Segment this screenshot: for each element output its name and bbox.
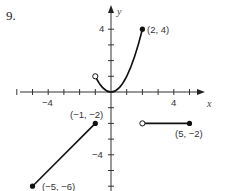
segment-left (33, 123, 96, 186)
graph: −4 4 4 −4 x y (2, 4) (−1, −2) (−5, −6) (… (0, 0, 226, 191)
closed-point-2-4 (140, 27, 145, 32)
y-axis-arrow-icon (108, 5, 114, 13)
y-axis-label: y (116, 6, 122, 17)
x-tick-label-neg4: −4 (42, 97, 53, 108)
closed-point-m1-m2 (93, 121, 98, 126)
closed-point-5-m2 (187, 121, 192, 126)
x-axis-arrow-icon (197, 89, 205, 95)
x-axis-label: x (206, 98, 212, 109)
y-tick-label-4: 4 (99, 23, 104, 34)
closed-point-m5-m6 (30, 184, 35, 189)
annotation-5-m2: (5, −2) (175, 128, 203, 139)
x-tick-label-4: 4 (171, 97, 176, 108)
open-point-m1-1 (93, 74, 98, 79)
parabola-curve (95, 29, 142, 92)
open-point-2-m2 (140, 121, 145, 126)
y-tick-label-neg4: −4 (92, 149, 103, 160)
annotation-m5-m6: (−5, −6) (42, 181, 75, 191)
annotation-m1-m2: (−1, −2) (70, 109, 103, 120)
annotation-2-4: (2, 4) (147, 24, 169, 35)
